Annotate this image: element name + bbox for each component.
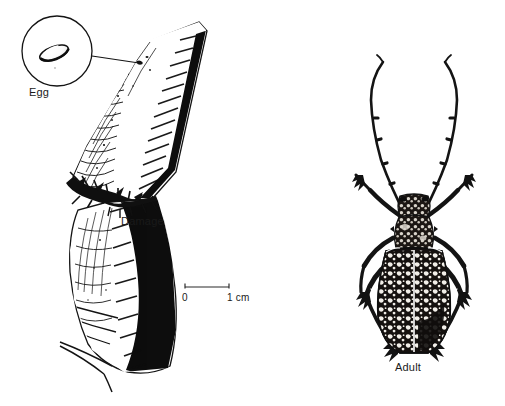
figure-artwork (0, 0, 505, 406)
adult-label: Adult (395, 361, 421, 373)
damage-label: Damage (121, 215, 164, 227)
egg-label: Egg (29, 86, 49, 98)
scale-bar-end-label: 1 cm (227, 292, 249, 303)
beetle-pronotum (390, 215, 438, 251)
eye-left (399, 196, 406, 201)
eye-right (421, 196, 428, 201)
scale-bar-start-label: 0 (182, 292, 188, 303)
illustration-figure: Egg Damage Adult 0 1 cm (0, 0, 505, 406)
egg-inset-speck (54, 67, 56, 69)
egg-site-marker (137, 61, 143, 65)
